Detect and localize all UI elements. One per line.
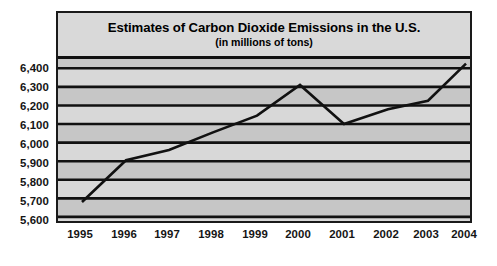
x-axis-tick-label: 2000: [285, 228, 311, 240]
y-axis-tick-label: 6,200: [20, 100, 49, 112]
grid-band: [58, 124, 470, 143]
y-axis: 6,400 6,300 6,200 6,100 6,000 5,900 5,80…: [0, 0, 52, 266]
x-axis-tick-label: 1995: [67, 228, 93, 240]
chart-title-band: Estimates of Carbon Dioxide Emissions in…: [58, 13, 470, 59]
grid-band: [58, 143, 470, 162]
x-axis: 1995 1996 1997 1998 1999 2000 2001 2002 …: [0, 228, 497, 250]
grid-band: [58, 87, 470, 106]
x-axis-tick-label: 1997: [154, 228, 180, 240]
y-axis-tick-label: 6,300: [20, 81, 49, 93]
x-axis-tick-label: 1998: [198, 228, 224, 240]
y-axis-tick-label: 5,800: [20, 176, 49, 188]
plot-area: [58, 59, 470, 221]
grid-band: [58, 68, 470, 87]
x-axis-tick-label: 2002: [373, 228, 399, 240]
grid-band: [58, 198, 470, 217]
x-axis-tick-label: 2001: [329, 228, 355, 240]
y-axis-tick-label: 6,000: [20, 138, 49, 150]
x-axis-tick-label: 1999: [242, 228, 268, 240]
x-axis-tick-label: 1996: [111, 228, 137, 240]
grid-band: [58, 161, 470, 180]
chart-figure: 6,400 6,300 6,200 6,100 6,000 5,900 5,80…: [0, 0, 497, 266]
plot-canvas: [58, 59, 470, 221]
x-axis-tick-label: 2003: [413, 228, 439, 240]
chart-frame: Estimates of Carbon Dioxide Emissions in…: [56, 11, 472, 223]
grid-bands: [58, 59, 470, 221]
chart-subtitle: (in millions of tons): [215, 36, 313, 49]
y-axis-tick-label: 6,400: [20, 62, 49, 74]
x-axis-tick-label: 2004: [451, 228, 477, 240]
grid-band: [58, 105, 470, 124]
grid-band: [58, 180, 470, 199]
y-axis-tick-label: 5,700: [20, 195, 49, 207]
y-axis-tick-label: 5,900: [20, 157, 49, 169]
chart-title: Estimates of Carbon Dioxide Emissions in…: [108, 20, 420, 35]
y-axis-tick-label: 5,600: [20, 214, 49, 226]
grid-band: [58, 59, 470, 68]
y-axis-tick-label: 6,100: [20, 119, 49, 131]
